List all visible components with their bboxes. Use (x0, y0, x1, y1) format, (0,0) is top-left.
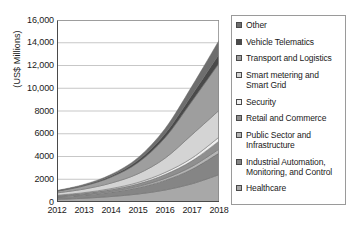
legend-item-label: Security (246, 97, 276, 107)
legend-swatch-icon (236, 22, 242, 28)
legend-item-label: Vehicle Telematics (246, 37, 314, 47)
plot-svg (57, 20, 219, 202)
legend-item[interactable]: Vehicle Telematics (236, 37, 342, 47)
x-tick-label: 2018 (204, 205, 234, 216)
y-tick-label: 2000 (10, 175, 54, 184)
legend-swatch-icon (236, 99, 242, 105)
y-tick-label: 6000 (10, 129, 54, 138)
legend-swatch-icon (236, 185, 242, 191)
stacked-area-chart: (US$ Millions) 16,00014,00012,00010,0008… (0, 0, 349, 236)
legend-item-label: Other (246, 20, 267, 30)
x-tick-label: 2016 (150, 205, 180, 216)
plot-area (57, 20, 219, 202)
legend-item-label: Transport and Logistics (246, 53, 332, 63)
x-tick-label: 2017 (177, 205, 207, 216)
legend-item-label: Smart metering and Smart Grid (246, 70, 342, 90)
y-tick-label: 4000 (10, 152, 54, 161)
legend-item-label: Industrial Automation, Monitoring, and C… (246, 157, 342, 177)
legend: OtherVehicle TelematicsTransport and Log… (231, 15, 346, 205)
legend-item[interactable]: Retail and Commerce (236, 113, 342, 123)
legend-swatch-icon (236, 115, 242, 121)
legend-item[interactable]: Security (236, 97, 342, 107)
area-bands (57, 40, 219, 202)
legend-swatch-icon (236, 72, 242, 78)
legend-swatch-icon (236, 39, 242, 45)
legend-item[interactable]: Public Sector and Infrastructure (236, 130, 342, 150)
legend-item[interactable]: Transport and Logistics (236, 53, 342, 63)
y-axis-tick-labels: 16,00014,00012,00010,0008000600040002000… (8, 0, 54, 236)
x-tick-label: 2014 (96, 205, 126, 216)
y-tick-label: 8000 (10, 107, 54, 116)
legend-item[interactable]: Smart metering and Smart Grid (236, 70, 342, 90)
legend-swatch-icon (236, 132, 242, 138)
legend-item-label: Retail and Commerce (246, 113, 326, 123)
legend-item[interactable]: Industrial Automation, Monitoring, and C… (236, 157, 342, 177)
x-tick-label: 2015 (123, 205, 153, 216)
y-tick-label: 16,000 (10, 16, 54, 25)
legend-swatch-icon (236, 55, 242, 61)
x-tick-label: 2013 (69, 205, 99, 216)
x-tick-label: 2012 (42, 205, 72, 216)
y-tick-label: 10,000 (10, 84, 54, 93)
legend-swatch-icon (236, 159, 242, 165)
legend-item[interactable]: Healthcare (236, 183, 342, 193)
legend-item-label: Public Sector and Infrastructure (246, 130, 342, 150)
x-axis-tick-labels: 2012201320142015201620172018 (57, 205, 219, 221)
y-tick-label: 14,000 (10, 38, 54, 47)
y-tick-label: 12,000 (10, 61, 54, 70)
legend-item[interactable]: Other (236, 20, 342, 30)
legend-item-label: Healthcare (246, 183, 286, 193)
